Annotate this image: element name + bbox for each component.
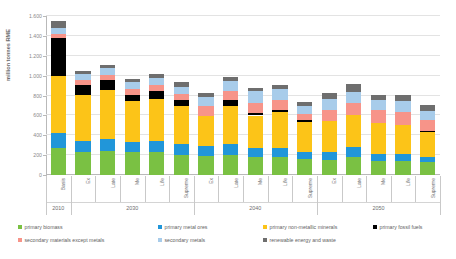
- bar-segment[interactable]: [223, 144, 238, 155]
- bar-segment[interactable]: [248, 157, 263, 175]
- bar-segment[interactable]: [125, 101, 140, 141]
- legend-item[interactable]: secondary metals: [158, 237, 205, 243]
- bar-segment[interactable]: [346, 84, 361, 92]
- bar-column[interactable]: [223, 16, 238, 175]
- bar-segment[interactable]: [198, 146, 213, 155]
- bar-segment[interactable]: [371, 100, 386, 110]
- bar-segment[interactable]: [346, 115, 361, 147]
- legend-item[interactable]: secondary materials except metals: [18, 237, 104, 243]
- bar-segment[interactable]: [272, 148, 287, 157]
- bar-segment[interactable]: [100, 68, 115, 75]
- bar-segment[interactable]: [322, 121, 337, 152]
- bar-segment[interactable]: [100, 65, 115, 68]
- bar-segment[interactable]: [125, 89, 140, 95]
- bar-segment[interactable]: [223, 77, 238, 81]
- bar-segment[interactable]: [100, 90, 115, 139]
- bar-segment[interactable]: [125, 142, 140, 152]
- bar-segment[interactable]: [248, 113, 263, 116]
- bar-segment[interactable]: [297, 120, 312, 122]
- bar-column[interactable]: [371, 16, 386, 175]
- bar-column[interactable]: [420, 16, 435, 175]
- bar-segment[interactable]: [198, 93, 213, 97]
- bar-segment[interactable]: [75, 74, 90, 80]
- bar-segment[interactable]: [420, 157, 435, 162]
- bar-segment[interactable]: [149, 74, 164, 78]
- bar-segment[interactable]: [248, 91, 263, 102]
- bar-segment[interactable]: [371, 95, 386, 101]
- bar-segment[interactable]: [395, 125, 410, 154]
- bar-segment[interactable]: [149, 99, 164, 141]
- bar-segment[interactable]: [420, 162, 435, 175]
- bar-segment[interactable]: [420, 132, 435, 157]
- bar-segment[interactable]: [125, 152, 140, 175]
- bar-segment[interactable]: [51, 34, 66, 39]
- bar-segment[interactable]: [395, 95, 410, 101]
- bar-segment[interactable]: [371, 161, 386, 175]
- bar-segment[interactable]: [125, 95, 140, 102]
- bar-segment[interactable]: [75, 95, 90, 141]
- bar-segment[interactable]: [371, 110, 386, 123]
- bar-column[interactable]: [248, 16, 263, 175]
- bar-segment[interactable]: [198, 106, 213, 116]
- bar-column[interactable]: [395, 16, 410, 175]
- bar-segment[interactable]: [322, 93, 337, 99]
- bar-segment[interactable]: [223, 91, 238, 101]
- bar-segment[interactable]: [371, 154, 386, 161]
- bar-segment[interactable]: [149, 91, 164, 100]
- bar-segment[interactable]: [174, 87, 189, 95]
- bar-segment[interactable]: [51, 38, 66, 76]
- bar-segment[interactable]: [223, 155, 238, 175]
- bar-segment[interactable]: [223, 106, 238, 144]
- bar-column[interactable]: [174, 16, 189, 175]
- bar-segment[interactable]: [395, 161, 410, 175]
- legend-item[interactable]: primary non-metallic minerals: [263, 224, 337, 230]
- bar-segment[interactable]: [272, 157, 287, 175]
- bar-segment[interactable]: [75, 80, 90, 85]
- bar-segment[interactable]: [198, 97, 213, 107]
- bar-segment[interactable]: [322, 152, 337, 160]
- bar-segment[interactable]: [322, 110, 337, 122]
- bar-segment[interactable]: [248, 116, 263, 149]
- bar-segment[interactable]: [346, 92, 361, 103]
- legend-item[interactable]: primary fossil fuels: [373, 224, 422, 230]
- bar-column[interactable]: [149, 16, 164, 175]
- bar-column[interactable]: [100, 16, 115, 175]
- bar-segment[interactable]: [149, 141, 164, 152]
- bar-segment[interactable]: [198, 156, 213, 175]
- bar-segment[interactable]: [174, 144, 189, 155]
- bar-segment[interactable]: [420, 131, 435, 132]
- bar-segment[interactable]: [395, 154, 410, 161]
- bar-segment[interactable]: [174, 94, 189, 100]
- bar-segment[interactable]: [125, 82, 140, 89]
- bar-segment[interactable]: [149, 85, 164, 91]
- bar-segment[interactable]: [223, 81, 238, 91]
- legend-item[interactable]: renewable energy and waste: [263, 237, 336, 243]
- bar-segment[interactable]: [149, 78, 164, 86]
- bar-segment[interactable]: [272, 89, 287, 100]
- bar-column[interactable]: [198, 16, 213, 175]
- bar-segment[interactable]: [223, 100, 238, 106]
- bar-segment[interactable]: [346, 147, 361, 157]
- bar-segment[interactable]: [100, 139, 115, 152]
- bar-segment[interactable]: [75, 152, 90, 175]
- bar-segment[interactable]: [174, 106, 189, 144]
- bar-segment[interactable]: [75, 141, 90, 152]
- bar-segment[interactable]: [395, 112, 410, 125]
- bar-segment[interactable]: [272, 112, 287, 148]
- bar-segment[interactable]: [272, 85, 287, 89]
- bar-segment[interactable]: [420, 120, 435, 131]
- bar-column[interactable]: [346, 16, 361, 175]
- bar-segment[interactable]: [297, 152, 312, 160]
- bar-column[interactable]: [322, 16, 337, 175]
- bar-segment[interactable]: [346, 103, 361, 116]
- bar-segment[interactable]: [100, 151, 115, 175]
- bar-column[interactable]: [125, 16, 140, 175]
- bar-segment[interactable]: [51, 76, 66, 132]
- bar-segment[interactable]: [322, 99, 337, 110]
- bar-segment[interactable]: [100, 75, 115, 80]
- bar-segment[interactable]: [51, 148, 66, 175]
- bar-segment[interactable]: [174, 82, 189, 86]
- bar-segment[interactable]: [125, 79, 140, 83]
- bar-column[interactable]: [75, 16, 90, 175]
- bar-column[interactable]: [272, 16, 287, 175]
